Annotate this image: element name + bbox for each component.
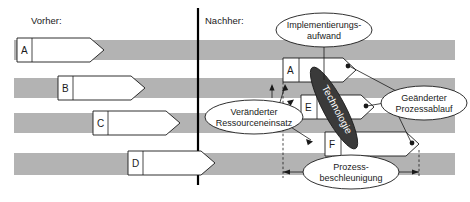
annotation-line-2: beschleunigung	[319, 173, 382, 183]
annotation-line-2: aufwand	[307, 31, 341, 41]
task-arrow-shape	[17, 38, 104, 62]
annotation-line-2: Ressourceneinsatz	[216, 118, 293, 128]
annotation-line-1: Implementierungs-	[287, 20, 362, 30]
task-arrow-before-c[interactable]: C	[93, 111, 180, 135]
task-label: B	[62, 83, 69, 94]
process-change-diagram: Vorher: Nachher: A B C D	[0, 0, 470, 202]
task-label: D	[132, 158, 139, 169]
annotation-line-2: Prozessablauf	[395, 104, 453, 114]
connector-dot-f	[410, 141, 415, 146]
task-arrow-shape	[58, 76, 145, 100]
annotation-ellipse	[205, 100, 303, 134]
header-before: Vorher:	[31, 15, 62, 26]
annotation-line-1: Geänderter	[401, 93, 447, 103]
header-after: Nachher:	[205, 15, 244, 26]
task-label: C	[97, 118, 104, 129]
task-label: A	[287, 65, 294, 76]
task-label: E	[305, 102, 312, 113]
annotation-ellipse	[276, 13, 372, 47]
diagram-canvas: Vorher: Nachher: A B C D	[0, 0, 470, 202]
task-arrow-before-a[interactable]: A	[17, 38, 104, 62]
annotation-line-1: Veränderter	[230, 107, 277, 117]
annotation-ellipse	[381, 86, 467, 120]
annotation-changed-resource-usage[interactable]: Veränderter Ressourceneinsatz	[205, 100, 303, 134]
connector-dot-a	[346, 64, 351, 69]
task-arrow-before-b[interactable]: B	[58, 76, 145, 100]
arrowhead-resource-to-f	[306, 139, 313, 145]
connector-dot-e	[364, 104, 369, 109]
annotation-ellipse	[303, 155, 399, 189]
annotation-implementation-effort[interactable]: Implementierungs- aufwand	[276, 13, 372, 47]
task-label: A	[21, 45, 28, 56]
task-label: F	[329, 139, 335, 150]
task-arrow-shape	[128, 151, 215, 175]
annotation-line-1: Prozess-	[333, 162, 369, 172]
annotation-changed-process-flow[interactable]: Geänderter Prozessablauf	[381, 86, 467, 120]
task-arrow-shape	[93, 111, 180, 135]
annotation-process-acceleration[interactable]: Prozess- beschleunigung	[303, 155, 399, 189]
task-arrow-before-d[interactable]: D	[128, 151, 215, 175]
